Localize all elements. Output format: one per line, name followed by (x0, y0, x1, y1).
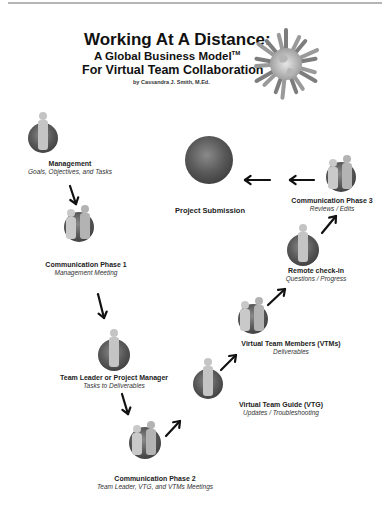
arrow-up-right-4-icon (322, 216, 336, 233)
arrow-up-right-1-icon (166, 421, 180, 436)
arrow-up-right-2-icon (221, 355, 236, 370)
arrow-down-3-icon (122, 394, 130, 414)
arrows-layer (0, 0, 388, 509)
arrow-left-1-icon (290, 176, 314, 184)
arrow-up-right-3-icon (268, 289, 285, 305)
arrow-down-1-icon (70, 186, 78, 204)
arrow-down-2-icon (98, 294, 107, 318)
arrow-left-2-icon (245, 176, 270, 184)
